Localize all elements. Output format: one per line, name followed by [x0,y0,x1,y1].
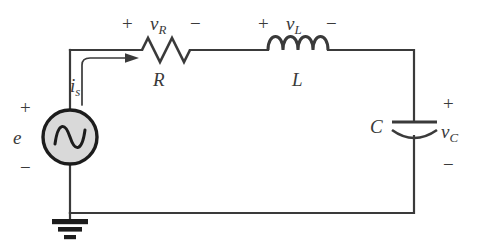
source-plus-sign: + [20,98,31,117]
inductor-voltage-label: vL [286,14,302,37]
capacitor-plus-sign: + [443,94,454,113]
ground-bar-1 [52,219,88,224]
source-minus-sign: − [20,158,31,177]
ground-icon [52,219,88,239]
inductor-plus-sign: + [258,14,269,33]
resistor-symbol [142,38,190,62]
current-label: is [70,76,80,99]
current-label-sub: s [75,84,80,99]
resistor-voltage-sub: R [158,22,166,37]
inductor-minus-sign: − [326,14,337,33]
inductor-voltage-sub: L [294,22,301,37]
current-arrow [82,58,128,105]
capacitor-label: C [370,117,383,136]
resistor-label: R [153,70,165,89]
source-label: e [13,128,21,147]
resistor-voltage-label: vR [150,14,166,37]
capacitor-voltage-sub: C [449,130,458,145]
ground-bar-2 [58,227,82,232]
current-arrowhead-icon [125,53,139,63]
capacitor-minus-sign: − [443,155,454,174]
resistor-plus-sign: + [122,14,133,33]
wire-top-right [328,50,414,122]
ground-bar-3 [64,235,76,239]
circuit-schematic-svg [0,0,486,250]
wire-bottom-right [70,136,414,213]
capacitor-voltage-label: vC [441,122,458,145]
inductor-label: L [292,70,303,89]
circuit-figure: + e − is + vR − R + vL − L C + vC − [0,0,486,250]
inductor-symbol [268,37,328,51]
resistor-minus-sign: − [190,14,201,33]
